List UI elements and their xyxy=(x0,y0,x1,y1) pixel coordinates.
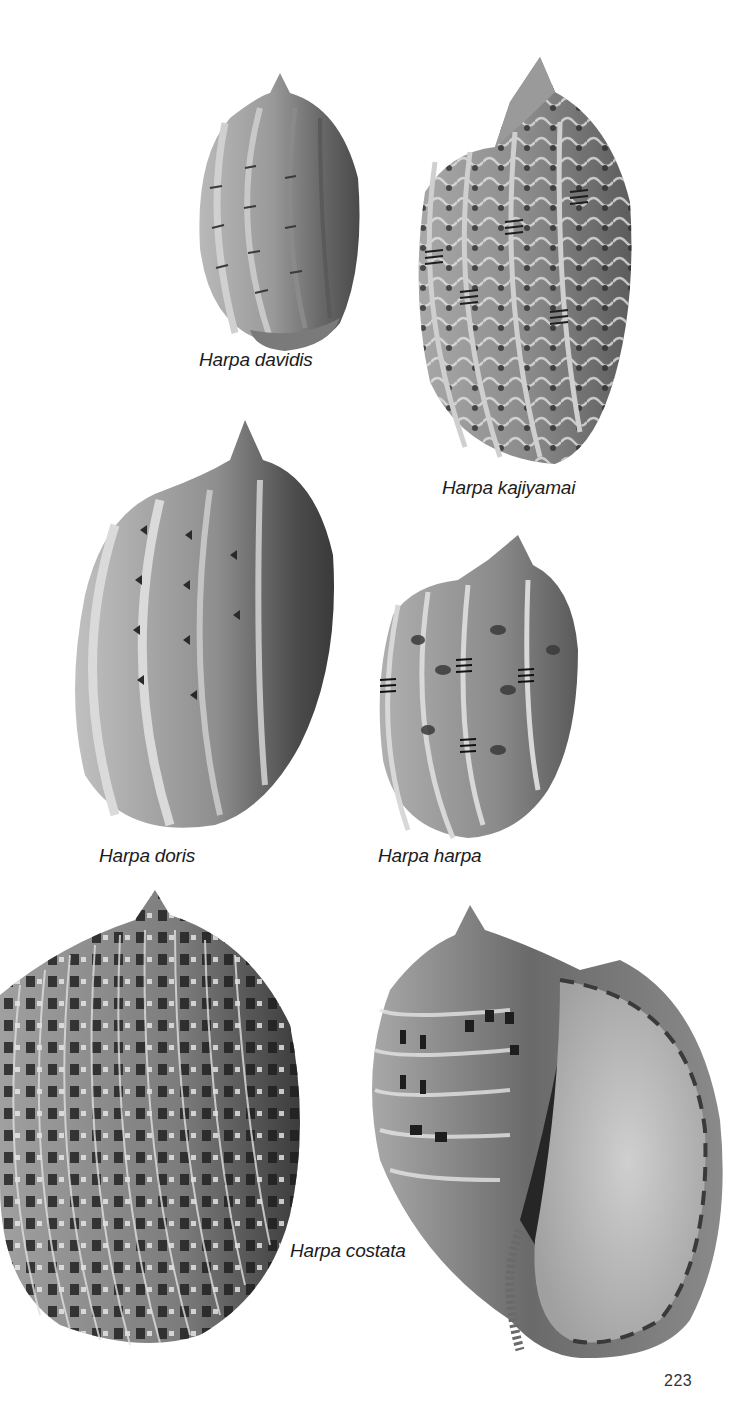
shell-illustration-harpa-davidis xyxy=(190,68,370,353)
shell-illustration-harpa-costata-apertural xyxy=(360,900,735,1365)
harpa-harpa-image xyxy=(368,530,583,845)
caption-harpa-costata: Harpa costata xyxy=(290,1240,406,1262)
caption-harpa-davidis: Harpa davidis xyxy=(199,349,313,371)
caption-harpa-harpa: Harpa harpa xyxy=(378,845,481,867)
shell-plate: Harpa davidis xyxy=(0,0,741,1402)
shell-illustration-harpa-kajiyamai xyxy=(405,52,640,472)
harpa-kajiyamai-image xyxy=(405,52,640,472)
caption-harpa-doris: Harpa doris xyxy=(99,845,195,867)
shell-illustration-harpa-harpa xyxy=(368,530,583,845)
harpa-doris-image xyxy=(65,415,350,845)
harpa-davidis-image xyxy=(190,68,370,353)
caption-harpa-kajiyamai: Harpa kajiyamai xyxy=(442,477,575,499)
harpa-costata-apertural-image xyxy=(360,900,735,1365)
shell-illustration-harpa-doris xyxy=(65,415,350,845)
shell-illustration-harpa-costata-dorsal xyxy=(0,885,315,1360)
harpa-costata-dorsal-image xyxy=(0,885,315,1360)
page-number: 223 xyxy=(664,1372,692,1390)
